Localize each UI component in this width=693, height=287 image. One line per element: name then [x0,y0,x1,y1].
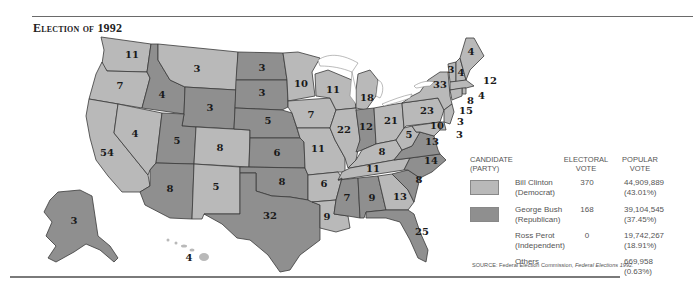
ev-label-KY: 8 [379,146,386,157]
ev-label-OH: 21 [384,115,398,126]
ev-label-MI: 18 [360,92,374,103]
popular-percent: (18.91%) [624,241,664,251]
popular-cell: 44,909,889 (43.01%) [624,178,664,198]
ev-label-OR: 7 [117,80,124,91]
ev-label-MA: 12 [483,75,497,86]
ev-label-MS: 7 [344,192,351,203]
state-MN [283,52,320,101]
ev-label-ME: 4 [468,46,475,57]
candidate-party: (Democrat) [515,188,555,198]
popular-percent: (37.45%) [624,215,664,225]
ev-label-UT: 5 [174,135,181,146]
state-CT [450,88,462,100]
ev-label-MN: 10 [294,78,308,89]
ev-label-WV: 5 [406,129,413,140]
popular-vote: 39,104,545 [624,205,664,215]
ev-label-NM: 5 [213,181,220,192]
swatch-democrat [470,180,499,195]
ev-label-CA: 54 [100,147,114,158]
header-electoral-1: ELECTORAL [563,155,609,164]
ev-label-OK: 8 [279,176,286,187]
ev-label-CO: 8 [217,142,224,153]
ev-label-SC: 8 [416,174,423,185]
ev-label-IN: 12 [359,121,373,132]
legend-row-clinton: Bill Clinton (Democrat) 370 44,909,889 (… [470,178,685,204]
ev-label-NE: 5 [265,115,272,126]
header-electoral-2: VOTE [563,164,609,173]
ev-label-HI: 4 [186,252,193,263]
ev-label-MD: 10 [430,120,444,131]
ev-label-TX: 32 [263,210,277,221]
ev-label-IA: 7 [308,109,315,120]
popular-cell: 19,742,267 (18.91%) [624,231,664,251]
popular-percent: (0.63%) [624,267,653,277]
ev-label-ND: 3 [259,62,266,73]
header-candidate: CANDIDATE [470,155,513,164]
lake-superior [318,55,358,72]
ev-label-NH: 4 [458,67,465,78]
ev-label-KS: 6 [274,147,281,158]
ev-label-WA: 11 [125,49,139,60]
state-RI [462,88,466,94]
popular-percent: (43.01%) [624,188,664,198]
candidate-party: (Republican) [515,215,562,225]
ev-label-VA: 13 [425,136,439,147]
candidate-cell: Ross Perot (Independent) [515,231,565,251]
source-org: Federal Election Commission, [499,262,575,268]
legend-header-electoral: ELECTORAL VOTE [563,155,609,173]
ev-label-DC: 3 [456,129,463,140]
ev-label-VT: 3 [448,64,455,75]
source-publication: Federal Elections 1992. [575,262,634,268]
legend-row-others: Others 669,958 (0.63%) [470,257,685,283]
source-prefix: SOURCE: [472,262,499,268]
electoral-vote: 168 [578,205,596,214]
bottom-rule [10,276,620,278]
ev-label-DE: 3 [457,116,464,127]
ev-label-WY: 3 [207,102,214,113]
ev-label-SD: 3 [259,87,266,98]
popular-vote: 44,909,889 [624,178,664,188]
ev-label-FL: 25 [415,226,429,237]
ev-label-MO: 11 [311,143,325,154]
ev-label-PA: 23 [420,105,434,116]
electoral-vote: 0 [578,231,596,240]
header-popular-2: VOTE [620,164,660,173]
ev-label-AK: 3 [71,215,78,226]
popular-cell: 39,104,545 (37.45%) [624,205,664,225]
candidate-cell: Bill Clinton (Democrat) [515,178,555,198]
ev-label-AL: 9 [369,192,376,203]
ev-label-ID: 4 [159,89,166,100]
legend-row-perot: Ross Perot (Independent) 0 19,742,267 (1… [470,231,685,257]
ev-label-TN: 11 [366,163,380,174]
legend-row-bush: George Bush (Republican) 168 39,104,545 … [470,205,685,231]
legend-header-candidate: CANDIDATE (PARTY) [470,155,513,173]
ev-label-LA: 9 [324,211,331,222]
ev-label-AR: 6 [321,178,328,189]
swatch-republican [470,207,499,222]
ev-label-RI: 4 [478,90,485,101]
ev-label-WI: 11 [326,84,340,95]
header-party: (PARTY) [470,164,513,173]
popular-vote: 19,742,267 [624,231,664,241]
candidate-party: (Independent) [515,241,565,251]
electoral-vote: 370 [578,178,596,187]
state-MI [356,70,378,110]
header-popular-1: POPULAR [620,155,660,164]
ev-label-NV: 4 [132,128,139,139]
candidate-cell: George Bush (Republican) [515,205,562,225]
ev-label-NC: 14 [424,155,438,166]
candidate-name: George Bush [515,205,562,215]
ev-label-IL: 22 [337,124,351,135]
ev-label-MT: 3 [194,63,201,74]
legend-header-popular: POPULAR VOTE [620,155,660,173]
ev-label-AZ: 8 [167,183,174,194]
candidate-name: Ross Perot [515,231,565,241]
ev-label-NJ: 15 [459,105,473,116]
source-citation: SOURCE: Federal Election Commission, Fed… [472,262,634,268]
ev-label-NY: 33 [433,79,447,90]
ev-label-GA: 13 [393,191,407,202]
state-AK [44,190,118,262]
candidate-name: Bill Clinton [515,178,555,188]
